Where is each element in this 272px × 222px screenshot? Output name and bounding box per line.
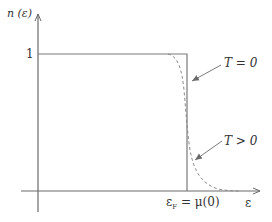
- diagram-graphics: [0, 0, 272, 222]
- y-axis-label: n (ε): [7, 8, 32, 19]
- label-t-zero: T = 0: [224, 57, 257, 69]
- pointer-arrow-t0: [192, 65, 221, 81]
- label-t-positive: T > 0: [224, 135, 257, 147]
- step-curve-t0: [38, 54, 187, 191]
- y-tick-label-one: 1: [26, 48, 34, 60]
- pointer-arrow-tpos: [195, 141, 222, 160]
- fermi-mu-text: = μ(0): [177, 195, 219, 209]
- fermi-dirac-diagram: n (ε) 1 T = 0 T > 0 εF = μ(0) ε: [0, 0, 272, 222]
- y-axis-label-text: n (ε): [7, 7, 32, 20]
- x-axis-label: ε: [245, 197, 251, 209]
- fermi-energy-label: εF = μ(0): [166, 196, 220, 211]
